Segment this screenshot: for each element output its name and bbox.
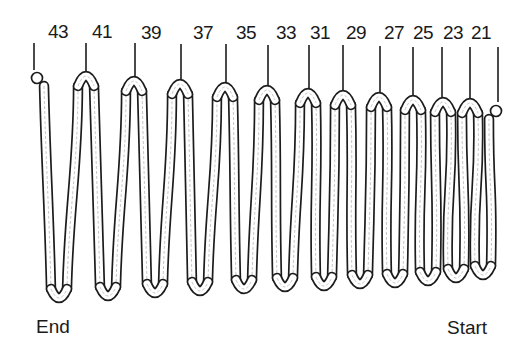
coil-end-cap-icon	[32, 73, 43, 84]
coil-front-strands	[44, 76, 491, 298]
coil-label-23: 23	[443, 23, 463, 42]
coil-label-27: 27	[384, 23, 404, 42]
coil-label-35: 35	[236, 23, 256, 42]
end-label: End	[36, 317, 70, 336]
coil-label-25: 25	[413, 23, 433, 42]
coil-label-43: 43	[48, 22, 68, 41]
coil-label-39: 39	[141, 23, 161, 42]
coil-label-33: 33	[276, 23, 296, 42]
coil-label-29: 29	[346, 23, 366, 42]
coil-label-41: 41	[92, 22, 112, 41]
start-label: Start	[447, 318, 487, 337]
coil-label-31: 31	[310, 23, 330, 42]
coil-label-21: 21	[471, 23, 491, 42]
coil-strand-fill	[448, 112, 452, 269]
coil-strand-fill	[188, 94, 192, 282]
coil-spring-diagram	[0, 0, 526, 361]
coil-label-37: 37	[193, 23, 213, 42]
coil-start-cap-icon	[491, 106, 502, 117]
